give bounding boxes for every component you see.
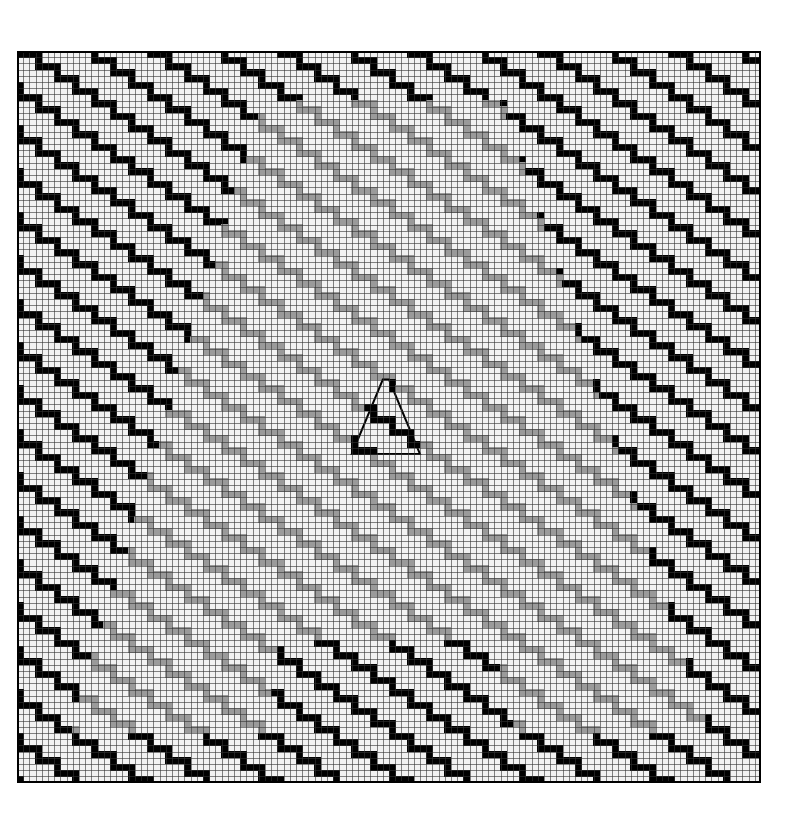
pattern-figure: Staircase zigzag grid pattern with gray … xyxy=(17,51,761,783)
figure-title: Staircase zigzag grid pattern with gray … xyxy=(17,783,18,784)
zigzag-grid-canvas xyxy=(17,51,761,783)
